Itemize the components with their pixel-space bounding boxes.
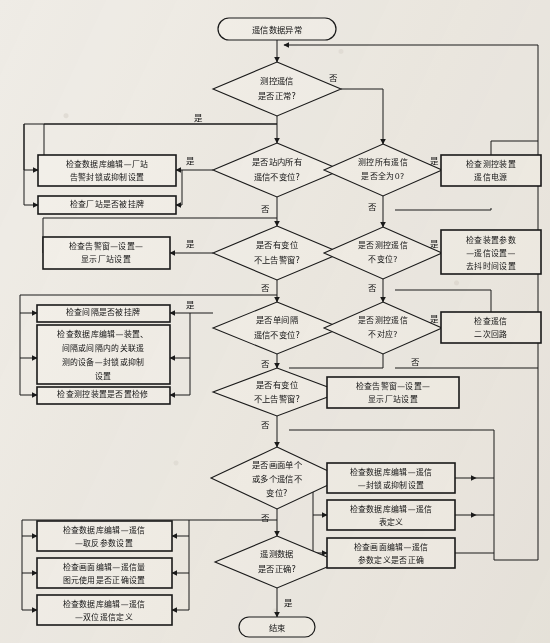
node-d6-line2: 或多个遥信不 (252, 474, 302, 484)
node-p14-line1: 检查测控装置 (466, 159, 516, 169)
node-p1-line2: 告警封锁或抑制设置 (70, 172, 145, 182)
node-d9-line1: 是否测控遥信 (358, 240, 408, 250)
node-d8: 测控所有遥信 是否全为0? (324, 144, 442, 196)
node-p3-line1: 检查告警窗—设置— (69, 241, 143, 251)
edge-label-d9-no: 否 (368, 283, 377, 293)
node-p12-line2: 图元使用是否正确设置 (63, 575, 146, 585)
node-p8-line1: 检查数据库编辑—遥信 (350, 467, 433, 477)
node-d5: 是否有变位 不上告警窗? (213, 368, 341, 416)
node-d8-line2: 是否全为0? (361, 171, 404, 181)
node-p2: 检查厂站是否被挂牌 (38, 196, 176, 214)
node-p7-line2: 显示厂站设置 (368, 394, 418, 404)
flowchart-page: 遥信数据异常 测控遥信 是否正常? 是 否 是否站内所有 遥信不变位? 是 否 … (0, 0, 550, 643)
node-start: 遥信数据异常 (218, 18, 336, 40)
node-p13-line2: —双位遥信定义 (75, 612, 133, 622)
edge-label-d8-no: 否 (368, 202, 377, 212)
edge-label-d3-yes: 是 (186, 239, 195, 249)
node-d1-line2: 是否正常? (258, 91, 296, 101)
node-p10-line1: 检查画面编辑—遥信 (354, 542, 429, 552)
node-p8: 检查数据库编辑—遥信 —封锁或抑制设置 (327, 463, 455, 493)
node-d4: 是否单间隔 遥信不变位? (213, 302, 341, 354)
edge-label-d1-yes: 是 (194, 113, 203, 123)
node-p3: 检查告警窗—设置— 显示厂站设置 (43, 237, 170, 269)
flowchart-canvas: 遥信数据异常 测控遥信 是否正常? 是 否 是否站内所有 遥信不变位? 是 否 … (0, 0, 550, 643)
node-d6-line3: 变位? (266, 488, 288, 498)
node-d9-line2: 不变位? (368, 254, 397, 264)
node-d10-line1: 是否测控遥信 (358, 315, 408, 325)
node-p16-line2: 二次回路 (474, 329, 507, 339)
edge-label-d9-yes: 是 (430, 239, 439, 249)
node-p9-line1: 检查数据库编辑—遥信 (350, 504, 433, 514)
node-p1: 检查数据库编辑—厂站 告警封锁或抑制设置 (38, 155, 176, 186)
node-p6: 检查测控装置是否置检修 (37, 387, 170, 404)
node-p16: 检查遥信 二次回路 (441, 312, 541, 343)
edge-label-d2-yes: 是 (186, 156, 195, 166)
node-p12: 检查画面编辑—遥信量 图元使用是否正确设置 (37, 558, 172, 588)
node-p5-line2: 间隔或间隔内的关联遥 (62, 343, 145, 353)
node-d6: 是否画面单个 或多个遥信不 变位? (211, 447, 343, 509)
node-p5-line3: 测的设备—封锁或抑制 (62, 357, 145, 367)
node-p4: 检查间隔是否被挂牌 (37, 305, 170, 322)
node-p4-line1: 检查间隔是否被挂牌 (66, 307, 141, 317)
node-p11-line1: 检查数据库编辑—遥信 (63, 525, 146, 535)
edge-label-d7-yes: 是 (284, 598, 293, 608)
node-d10-line2: 不对应? (368, 329, 397, 339)
node-d5-line1: 是否有变位 (256, 380, 298, 390)
edge-label-d4-yes: 是 (186, 300, 195, 310)
node-p3-line2: 显示厂站设置 (81, 254, 131, 264)
node-d2-line2: 遥信不变位? (254, 172, 301, 182)
node-d1: 测控遥信 是否正常? (213, 62, 341, 116)
node-d8-line1: 测控所有遥信 (358, 157, 408, 167)
node-end-text: 结束 (269, 623, 286, 633)
node-d4-line2: 遥信不变位? (254, 330, 301, 340)
node-p5: 检查数据库编辑—装置、 间隔或间隔内的关联遥 测的设备—封锁或抑制 设置 (37, 325, 170, 384)
node-p2-line1: 检查厂站是否被挂牌 (70, 199, 145, 209)
node-p5-line4: 设置 (95, 371, 112, 381)
node-p1-line1: 检查数据库编辑—厂站 (66, 159, 149, 169)
node-p13: 检查数据库编辑—遥信 —双位遥信定义 (37, 595, 172, 625)
edge-label-d3-no: 否 (261, 283, 270, 293)
edge-label-d10-yes: 是 (430, 314, 439, 324)
node-d2: 是否站内所有 遥信不变位? (213, 143, 341, 197)
node-d3-line1: 是否有变位 (256, 240, 298, 250)
node-p11-line2: —取反参数设置 (75, 538, 133, 548)
node-p10: 检查画面编辑—遥信 参数定义是否正确 (327, 538, 455, 568)
node-p14: 检查测控装置 遥信电源 (441, 155, 541, 186)
node-d3: 是否有变位 不上告警窗? (213, 226, 341, 280)
node-p5-line1: 检查数据库编辑—装置、 (57, 329, 148, 339)
node-p16-line1: 检查遥信 (474, 316, 507, 326)
node-end: 结束 (239, 617, 315, 637)
node-d4-line1: 是否单间隔 (256, 315, 298, 325)
node-p7-line1: 检查告警窗—设置— (356, 381, 430, 391)
node-p7: 检查告警窗—设置— 显示厂站设置 (327, 377, 459, 408)
node-p15-line1: 检查装置参数 (466, 235, 516, 245)
edge-label-d2-no: 否 (261, 204, 270, 214)
node-p15-line3: 去抖时间设置 (466, 261, 516, 271)
node-d2-line1: 是否站内所有 (252, 157, 302, 167)
node-p10-line2: 参数定义是否正确 (358, 555, 424, 565)
node-d3-line2: 不上告警窗? (254, 255, 301, 265)
node-d7: 遥测数据 是否正确? (215, 536, 339, 588)
node-d9: 是否测控遥信 不变位? (324, 227, 442, 279)
node-d5-line2: 不上告警窗? (254, 394, 301, 404)
node-p11: 检查数据库编辑—遥信 —取反参数设置 (37, 521, 172, 551)
node-p13-line1: 检查数据库编辑—遥信 (63, 599, 146, 609)
node-p9: 检查数据库编辑—遥信 表定义 (327, 500, 455, 530)
node-d6-line1: 是否画面单个 (252, 460, 303, 470)
node-p6-line1: 检查测控装置是否置检修 (57, 389, 148, 399)
node-start-text: 遥信数据异常 (252, 25, 302, 35)
edge-label-d1-no: 否 (329, 73, 338, 83)
edge-label-d4-no: 否 (261, 359, 270, 369)
edge-label-d5-no: 否 (261, 420, 270, 430)
node-p8-line2: —封锁或抑制设置 (358, 480, 424, 490)
edge-label-d10-no: 否 (411, 357, 420, 367)
node-p9-line2: 表定义 (379, 517, 404, 527)
node-p12-line1: 检查画面编辑—遥信量 (63, 562, 146, 572)
node-p14-line2: 遥信电源 (474, 172, 507, 182)
edge-label-d6-no: 否 (261, 513, 270, 523)
node-d10: 是否测控遥信 不对应? (324, 302, 442, 354)
node-d7-line1: 遥测数据 (260, 549, 294, 559)
node-p15-line2: —遥信设置— (466, 248, 516, 258)
node-p15: 检查装置参数 —遥信设置— 去抖时间设置 (441, 230, 541, 274)
node-d1-line1: 测控遥信 (260, 76, 294, 86)
